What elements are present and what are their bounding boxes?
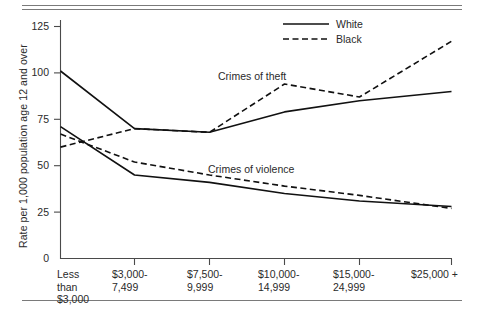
legend-dashed-line-icon <box>283 34 329 44</box>
y-tick-label: 0 <box>43 252 49 264</box>
y-tick-label: 100 <box>31 66 49 78</box>
y-tick-label: 75 <box>37 113 49 125</box>
x-category-label-4: $15,000- 24,999 <box>333 268 374 293</box>
legend-solid-line-icon <box>283 19 329 29</box>
series-line-theft-black <box>61 41 452 147</box>
axes <box>54 20 452 265</box>
x-category-label-2: $7,500- 9,999 <box>187 268 223 293</box>
x-category-label-1: $3,000- 7,499 <box>112 268 148 293</box>
annotation-crimes-of-theft: Crimes of theft <box>218 70 286 82</box>
x-tick-marks <box>135 259 452 266</box>
y-tick-label: 50 <box>37 159 49 171</box>
annotation-crimes-of-violence: Crimes of violence <box>208 163 294 175</box>
y-tick-label: 125 <box>31 20 49 32</box>
legend-label-white: White <box>336 18 363 30</box>
series-lines <box>61 41 452 208</box>
legend-entry-white: White <box>283 16 413 31</box>
y-tick-labels: 125 100 75 50 25 0 <box>31 20 49 264</box>
y-axis-title: Rate per 1,000 population age 12 and ove… <box>17 44 29 248</box>
axis-lines <box>61 20 453 259</box>
x-category-label-5: $25,000 + <box>411 268 458 281</box>
chart-legend: White Black <box>283 16 413 46</box>
y-tick-marks <box>54 27 61 213</box>
x-category-label-0: Less than $3,000 <box>57 268 89 306</box>
x-category-label-3: $10,000- 14,999 <box>258 268 299 293</box>
chart-figure: 125 100 75 50 25 0 Rate per 1,000 popula… <box>0 0 480 315</box>
legend-label-black: Black <box>336 33 362 45</box>
legend-entry-black: Black <box>283 31 413 46</box>
y-tick-label: 25 <box>37 206 49 218</box>
